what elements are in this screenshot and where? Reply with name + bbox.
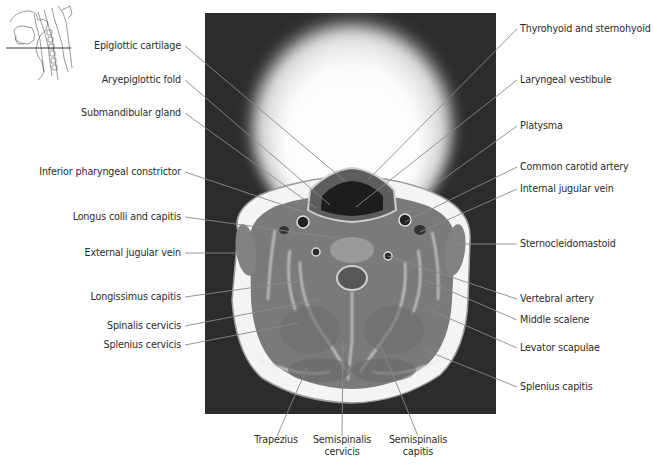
figure: Epiglottic cartilageAryepiglottic foldSu…	[0, 0, 653, 472]
label-longissimus-capitis: Longissimus capitis	[90, 291, 181, 303]
label-sternocleidomastoid: Sternocleidomastoid	[520, 238, 616, 250]
oral-cavity-sketch	[14, 26, 35, 44]
label-middle-scalene: Middle scalene	[520, 314, 589, 326]
label-laryngeal-vestibule: Laryngeal vestibule	[520, 74, 611, 86]
label-line: Semispinalis	[358, 434, 478, 446]
label-internal-jugular-vein: Internal jugular vein	[520, 183, 614, 195]
label-aryepiglottic-fold: Aryepiglottic fold	[102, 74, 181, 86]
left-carotid	[297, 216, 309, 228]
face-profile-sketch	[10, 11, 48, 80]
label-splenius-capitis: Splenius capitis	[520, 381, 593, 393]
label-levator-scapulae: Levator scapulae	[520, 342, 600, 354]
label-submandibular-gland: Submandibular gland	[81, 107, 181, 119]
label-spinalis-cervicis: Spinalis cervicis	[107, 320, 181, 332]
label-epiglottic-cartilage: Epiglottic cartilage	[94, 40, 181, 52]
label-platysma: Platysma	[520, 120, 563, 132]
spinal-canal	[337, 266, 367, 290]
label-inferior-pharyngeal-constrictor: Inferior pharyngeal constrictor	[39, 166, 181, 178]
label-splenius-cervicis: Splenius cervicis	[104, 339, 181, 351]
left-vertebral-artery	[312, 248, 320, 256]
mri-image	[205, 8, 496, 414]
orientation-thumbnail	[6, 6, 72, 80]
label-common-carotid-artery: Common carotid artery	[520, 161, 629, 173]
label-external-jugular-vein: External jugular vein	[85, 247, 181, 259]
label-longus-colli-and-capitis: Longus colli and capitis	[73, 211, 181, 223]
label-thyrohyoid-and-sternohyoid: Thyrohyoid and sternohyoid	[520, 23, 651, 35]
muscle-compartment	[250, 194, 455, 389]
label-vertebral-artery: Vertebral artery	[520, 293, 594, 305]
label-semispinalis-capitis: Semispinaliscapitis	[358, 434, 478, 458]
figure-canvas	[0, 0, 653, 472]
vertebral-body	[330, 237, 374, 263]
label-line: capitis	[358, 446, 478, 458]
